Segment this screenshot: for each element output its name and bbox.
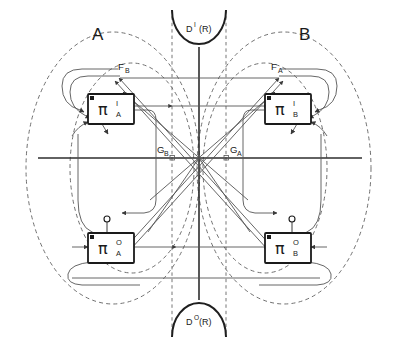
module-glyph-pi-output-b: π [275, 239, 285, 258]
signal-label-fa: F A [271, 61, 283, 74]
domain-label-top: D I (R) [186, 21, 212, 34]
domain-top-argument: (R) [199, 24, 212, 34]
signal-label-gb: G B [157, 144, 169, 157]
signal-ga-subscript: A [237, 150, 242, 157]
arrow-out-input-b-down [291, 124, 297, 134]
link-input-a-to-output-a [122, 110, 156, 213]
loop-output-a-return [68, 262, 140, 285]
module-pi-output-b[interactable]: π O B [265, 233, 311, 263]
domain-bottom-base: D [186, 317, 193, 327]
diagonal-center-to-input-b [150, 92, 275, 200]
domain-top-base: D [186, 24, 193, 34]
module-superscript-pi-output-a: O [116, 238, 122, 247]
module-glyph-pi-output-a: π [98, 239, 108, 258]
module-glyph-pi-input-a: π [98, 100, 108, 119]
module-subscript-pi-output-a: A [116, 249, 121, 258]
region-label-a: A [92, 25, 104, 44]
module-superscript-pi-output-b: O [293, 238, 299, 247]
signal-gb-subscript: B [164, 150, 169, 157]
link-output-a-upleft [78, 134, 96, 234]
signal-fa-subscript: A [278, 67, 283, 74]
link-output-b-upright [303, 134, 321, 234]
module-subscript-pi-input-a: A [116, 110, 121, 119]
domain-label-bottom: D O (R) [186, 314, 212, 327]
arrow-into-input-b-lower [311, 122, 327, 136]
port-stem-output-a [104, 216, 110, 234]
signal-fb-base: F [118, 61, 124, 72]
coupled-agent-diagram: π I A π O A π I B π O B A B D I (R) D O … [0, 0, 394, 347]
module-superscript-pi-input-a: I [116, 99, 118, 108]
module-pi-input-b[interactable]: π I B [265, 94, 311, 124]
domain-bottom-argument: (R) [199, 317, 212, 327]
arrow-out-input-a-down [102, 124, 108, 134]
link-input-b-to-output-b [243, 110, 277, 213]
module-superscript-pi-input-b: I [293, 99, 295, 108]
module-subscript-pi-input-b: B [293, 110, 298, 119]
module-pi-input-a[interactable]: π I A [88, 94, 134, 124]
diagram-canvas: π I A π O A π I B π O B A B D I (R) D O … [0, 0, 394, 347]
port-stem-output-b [289, 216, 295, 234]
module-subscript-pi-output-b: B [293, 249, 298, 258]
domain-top-superscript: I [194, 21, 196, 28]
module-glyph-pi-input-b: π [275, 100, 285, 119]
region-label-b: B [299, 25, 310, 44]
signal-label-fb: F B [118, 61, 130, 74]
module-pi-output-a[interactable]: π O A [88, 233, 134, 263]
signal-fb-subscript: B [125, 67, 130, 74]
loop-output-b-return [259, 262, 331, 285]
signal-fa-base: F [271, 61, 277, 72]
signal-label-ga: G A [230, 144, 242, 157]
